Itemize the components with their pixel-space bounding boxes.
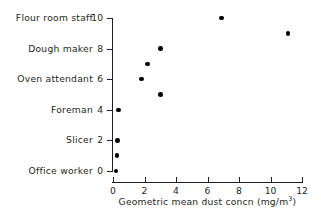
data-point — [139, 77, 144, 82]
x-axis-tick-label: 10 — [265, 186, 277, 195]
x-axis-tick — [113, 177, 114, 183]
data-point — [115, 153, 120, 158]
y-axis-tick-label: 2 — [97, 136, 103, 145]
x-axis-tick-label: 0 — [110, 186, 116, 195]
y-axis-tick — [107, 49, 112, 50]
x-axis-tick — [271, 177, 272, 183]
x-axis-tick — [145, 177, 146, 183]
data-point — [145, 62, 150, 67]
y-axis-tick — [107, 18, 112, 19]
y-axis-tick — [107, 171, 112, 172]
x-axis-tick-label: 6 — [205, 186, 211, 195]
category-label: Office worker — [29, 166, 93, 175]
x-axis-tick — [302, 177, 303, 183]
data-point — [116, 108, 121, 113]
x-axis-tick-label: 12 — [296, 186, 308, 195]
x-axis-tick-label: 4 — [173, 186, 179, 195]
scatter-plot-figure: Flour room staffDough makerOven attendan… — [0, 0, 321, 220]
y-axis-tick-label: 0 — [97, 166, 103, 175]
category-label: Slicer — [66, 136, 93, 145]
x-axis-title: Geometric mean dust concn (mg/m3) — [113, 197, 302, 206]
x-axis-tick-label: 2 — [142, 186, 148, 195]
plot-area: 0246810024681012 — [113, 18, 302, 171]
y-axis-tick-label: 6 — [97, 75, 103, 84]
y-axis-tick-label: 10 — [91, 13, 103, 22]
data-point — [158, 46, 163, 51]
x-axis-tick — [176, 177, 177, 183]
data-point — [158, 92, 163, 97]
y-axis-tick-label: 4 — [97, 105, 103, 114]
x-axis-tick-label: 8 — [236, 186, 242, 195]
data-point — [219, 16, 224, 21]
y-axis-tick — [107, 110, 112, 111]
data-point — [115, 138, 120, 143]
x-axis-tick — [208, 177, 209, 183]
category-label: Foreman — [51, 105, 93, 114]
category-label: Dough maker — [28, 44, 93, 53]
x-axis-title-superscript: 3 — [288, 195, 292, 203]
x-axis-tick — [239, 177, 240, 183]
y-axis-tick — [107, 140, 112, 141]
data-point — [286, 31, 291, 36]
data-point — [114, 169, 119, 174]
y-axis-tick — [107, 79, 112, 80]
category-label: Oven attendant — [17, 75, 93, 84]
y-axis-line — [112, 18, 113, 172]
category-label: Flour room staff — [16, 13, 93, 22]
category-label-column: Flour room staffDough makerOven attendan… — [0, 0, 93, 220]
y-axis-tick-label: 8 — [97, 44, 103, 53]
